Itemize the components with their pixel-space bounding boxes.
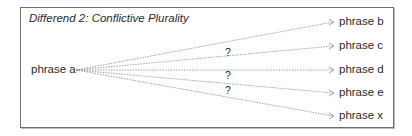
line-to-phrase-c: [76, 46, 333, 70]
line-to-phrase-b: [76, 22, 333, 70]
line-to-phrase-e: [76, 70, 333, 93]
target-phrase-e: phrase e: [339, 86, 384, 98]
arrowhead-icon: [329, 67, 334, 73]
question-mark-e: ?: [225, 84, 231, 96]
line-to-phrase-x: [76, 70, 333, 116]
target-phrase-b: phrase b: [339, 15, 384, 27]
question-mark-d: ?: [225, 69, 231, 81]
target-phrase-c: phrase c: [339, 39, 383, 51]
target-phrase-x: phrase x: [339, 109, 383, 121]
question-mark-c: ?: [225, 46, 231, 58]
target-phrase-d: phrase d: [339, 63, 384, 75]
